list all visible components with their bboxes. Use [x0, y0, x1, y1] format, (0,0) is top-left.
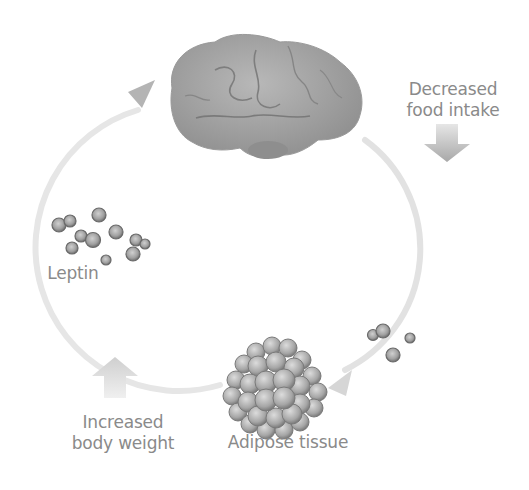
decreased-line2: food intake	[398, 100, 508, 121]
leptin-label: Leptin	[38, 263, 108, 284]
leptin-molecules-left	[52, 208, 150, 265]
arrowhead-to-brain-icon	[128, 80, 155, 108]
increased-line1: Increased	[58, 412, 188, 433]
down-arrow-icon	[424, 124, 470, 162]
arrowhead-to-adipose-icon	[328, 370, 352, 396]
increased-line2: body weight	[58, 433, 188, 454]
adipose-tissue-icon	[223, 337, 327, 439]
decreased-food-intake-label: Decreased food intake	[398, 79, 508, 121]
adipose-tissue-label: Adipose tissue	[218, 432, 358, 453]
leptin-cycle-diagram: Decreased food intake Leptin Increased b…	[0, 0, 529, 490]
brain-icon	[171, 34, 362, 159]
increased-body-weight-label: Increased body weight	[58, 412, 188, 454]
decreased-line1: Decreased	[398, 79, 508, 100]
